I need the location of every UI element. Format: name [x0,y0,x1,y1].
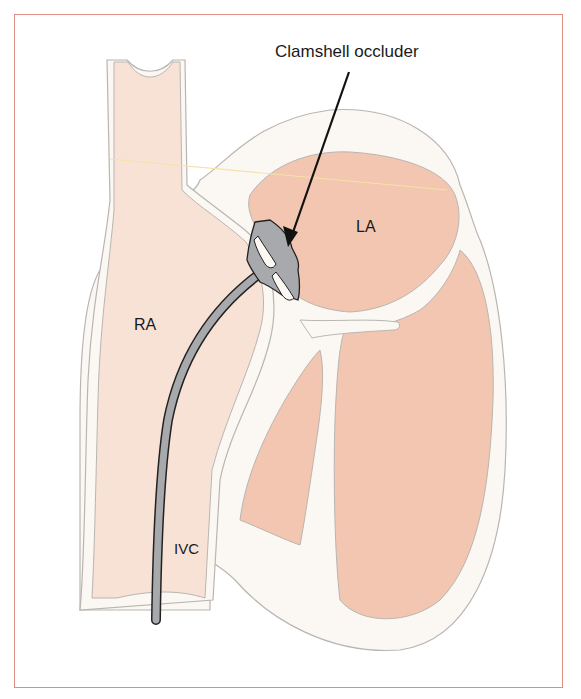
label-inferior-vena-cava: IVC [174,540,199,557]
annotation-label: Clamshell occluder [275,42,419,62]
heart-diagram [0,0,581,699]
label-right-atrium: RA [134,316,156,334]
label-left-atrium: LA [356,218,376,236]
